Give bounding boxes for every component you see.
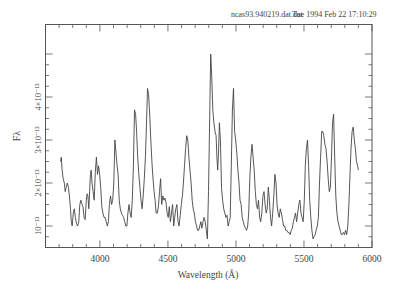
spectrum-chart: 40004500500055006000 10⁻¹³2×10⁻¹³3×10⁻¹³… bbox=[0, 0, 395, 294]
svg-text:Fλ: Fλ bbox=[11, 131, 22, 142]
y-tick-label: 10⁻¹³ bbox=[33, 217, 43, 236]
x-axis-ticks: 40004500500055006000 bbox=[46, 25, 382, 265]
y-axis-label: Fλ bbox=[11, 131, 22, 142]
x-tick-label: 4500 bbox=[158, 254, 177, 264]
x-axis-label: Wavelength (Å) bbox=[178, 269, 239, 281]
x-tick-label: 4000 bbox=[90, 254, 109, 264]
x-tick-label: 6000 bbox=[363, 254, 382, 264]
y-tick-label: 4×10⁻¹³ bbox=[33, 83, 43, 111]
y-tick-label: 3×10⁻¹³ bbox=[33, 126, 43, 154]
x-tick-label: 5000 bbox=[226, 254, 245, 264]
plot-frame bbox=[46, 25, 373, 248]
spectrum-line bbox=[61, 54, 359, 239]
y-tick-label: 2×10⁻¹³ bbox=[33, 169, 43, 197]
x-tick-label: 5500 bbox=[294, 254, 313, 264]
